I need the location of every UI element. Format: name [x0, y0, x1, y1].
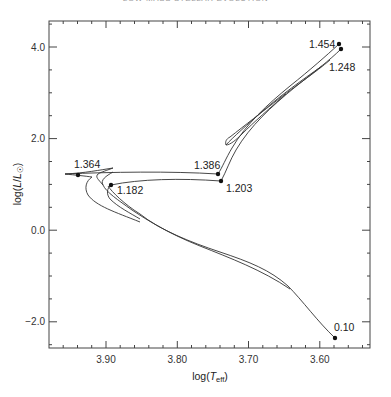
x-axis-label: log(Teff)	[192, 370, 228, 384]
point-1.364	[76, 173, 80, 177]
x-tick-label: 3.60	[310, 354, 330, 365]
x-tick-label: 3.90	[96, 354, 116, 365]
point-label: 1.454	[309, 38, 335, 50]
point-label: 1.203	[226, 182, 252, 194]
plot-frame	[49, 21, 370, 348]
evolutionary-track	[65, 44, 341, 338]
y-tick-label: 4.0	[31, 42, 45, 53]
point-1.203	[219, 179, 223, 183]
point-label: 1.386	[194, 159, 220, 171]
point-1.386	[216, 172, 220, 176]
point-1.248	[339, 47, 343, 51]
point-label: 1.364	[74, 158, 100, 170]
x-tick-label: 3.80	[168, 354, 188, 365]
y-tick-label: 0.0	[31, 225, 45, 236]
x-tick-label: 3.70	[239, 354, 259, 365]
point-0.10	[333, 336, 337, 340]
y-axis-ticks-left	[49, 24, 57, 345]
point-1.182	[109, 183, 113, 187]
track-points	[76, 42, 343, 340]
y-tick-label: −2.0	[25, 316, 45, 327]
x-axis-ticks-bottom	[63, 341, 362, 348]
hr-diagram-chart: 3.90 3.80 3.70 3.60 4.0 2.0 0.0 −2.0 log…	[0, 0, 391, 397]
point-1.454	[337, 42, 341, 46]
point-label: 0.10	[334, 321, 355, 333]
x-axis-ticks-top	[63, 21, 362, 28]
y-tick-label: 2.0	[31, 133, 45, 144]
point-label: 1.182	[117, 184, 143, 196]
point-label: 1.248	[329, 61, 355, 73]
y-axis-label: log(L/L☉)	[11, 163, 25, 206]
y-axis-ticks-right	[362, 24, 370, 345]
